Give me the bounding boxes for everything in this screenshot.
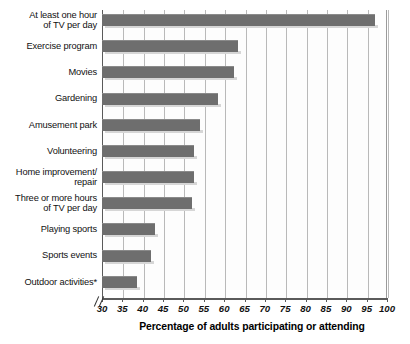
category-label: Playing sports bbox=[0, 224, 97, 234]
category-label-line: of TV per day bbox=[0, 20, 97, 30]
tick-mark bbox=[285, 298, 286, 302]
category-label: Amusement park bbox=[0, 120, 97, 130]
tick-mark bbox=[306, 298, 307, 302]
category-label-line: Movies bbox=[0, 67, 97, 77]
category-label: Three or more hoursof TV per day bbox=[0, 193, 97, 214]
bar-row bbox=[102, 115, 387, 139]
category-label: Volunteering bbox=[0, 146, 97, 156]
bar-row bbox=[102, 36, 387, 60]
category-label-line: Outdoor activities* bbox=[0, 277, 97, 287]
bar-row bbox=[102, 62, 387, 86]
tick-mark bbox=[163, 298, 164, 302]
tick-mark bbox=[245, 298, 246, 302]
bar bbox=[102, 250, 151, 262]
bar bbox=[102, 197, 192, 209]
bar bbox=[102, 66, 234, 78]
category-label: Movies bbox=[0, 67, 97, 77]
bar bbox=[102, 119, 200, 131]
bar bbox=[102, 145, 194, 157]
category-label-line: Sports events bbox=[0, 250, 97, 260]
category-label-line: Home improvement/ bbox=[0, 167, 97, 177]
bar bbox=[102, 93, 218, 105]
tick-mark bbox=[204, 298, 205, 302]
x-tick-label: 100 bbox=[374, 303, 400, 314]
tick-mark bbox=[265, 298, 266, 302]
bar-row bbox=[102, 141, 387, 165]
bar bbox=[102, 171, 194, 183]
category-label-line: At least one hour bbox=[0, 10, 97, 20]
bar bbox=[102, 40, 238, 52]
tick-mark bbox=[122, 298, 123, 302]
tick-mark bbox=[143, 298, 144, 302]
category-label-line: repair bbox=[0, 177, 97, 187]
tick-mark bbox=[367, 298, 368, 302]
category-label: Outdoor activities* bbox=[0, 277, 97, 287]
category-label: Sports events bbox=[0, 250, 97, 260]
category-label: At least one hourof TV per day bbox=[0, 10, 97, 31]
bar bbox=[102, 223, 155, 235]
tick-mark bbox=[346, 298, 347, 302]
category-label: Exercise program bbox=[0, 41, 97, 51]
bar bbox=[102, 276, 137, 288]
category-label-line: Playing sports bbox=[0, 224, 97, 234]
tick-mark bbox=[183, 298, 184, 302]
bar-row bbox=[102, 89, 387, 113]
tick-mark bbox=[387, 298, 388, 302]
category-label-line: Gardening bbox=[0, 93, 97, 103]
tick-mark bbox=[224, 298, 225, 302]
tick-mark bbox=[326, 298, 327, 302]
category-label-line: Exercise program bbox=[0, 41, 97, 51]
gridline bbox=[388, 10, 389, 298]
bar-row bbox=[102, 167, 387, 191]
bar-row bbox=[102, 10, 387, 34]
category-label-line: Three or more hours bbox=[0, 193, 97, 203]
x-axis-title: Percentage of adults participating or at… bbox=[102, 321, 402, 332]
bar-row bbox=[102, 272, 387, 296]
category-label-line: Amusement park bbox=[0, 120, 97, 130]
category-label: Home improvement/repair bbox=[0, 167, 97, 188]
category-label-line: of TV per day bbox=[0, 203, 97, 213]
category-label: Gardening bbox=[0, 93, 97, 103]
axis-break-icon bbox=[94, 296, 108, 308]
bar-row bbox=[102, 193, 387, 217]
bar-chart: At least one hourof TV per dayExercise p… bbox=[0, 0, 410, 344]
category-label-line: Volunteering bbox=[0, 146, 97, 156]
bar-row bbox=[102, 219, 387, 243]
bar bbox=[102, 14, 375, 26]
bar-row bbox=[102, 246, 387, 270]
